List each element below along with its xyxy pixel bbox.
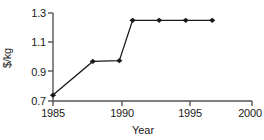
x-axis bbox=[53, 101, 252, 106]
data-point-marker bbox=[130, 18, 136, 23]
data-point-marker bbox=[183, 18, 189, 23]
plot-area bbox=[0, 0, 264, 140]
data-point-marker bbox=[209, 18, 215, 23]
series-price bbox=[50, 18, 215, 98]
y-axis bbox=[48, 13, 53, 101]
line-chart: $/kg 1.3 1.1 0.9 0.7 1985 1990 1995 2000… bbox=[0, 0, 264, 140]
data-point-marker bbox=[156, 18, 162, 23]
data-point-marker bbox=[116, 58, 122, 63]
